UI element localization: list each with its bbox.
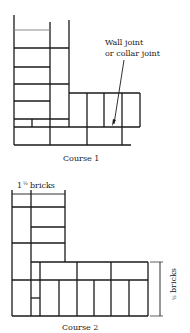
dimension-depth-frac: ½	[171, 295, 177, 300]
course-2-plan	[12, 190, 163, 316]
dimension-width-frac: ½	[23, 180, 28, 186]
annotation-collar-joint: or collar joint	[105, 49, 161, 58]
dimension-width-whole: 1	[17, 181, 22, 190]
course-1-plan	[14, 15, 140, 145]
annotation-wall-joint: Wall joint	[105, 38, 144, 47]
brick-bond-diagram: Wall joint or collar joint Course 1 1 ½ …	[0, 0, 190, 333]
caption-course-2: Course 2	[62, 323, 98, 332]
dimension-depth-unit: bricks	[169, 268, 178, 293]
dimension-width-unit: bricks	[30, 181, 55, 190]
caption-course-1: Course 1	[63, 154, 99, 163]
